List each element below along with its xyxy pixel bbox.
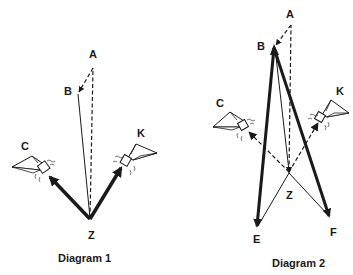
- vector-ab-dashed: [79, 68, 93, 92]
- vector-za-dashed: [90, 68, 93, 218]
- diagram-1: A B C K Z Diagram 1: [12, 48, 157, 264]
- label-z: Z: [286, 189, 293, 201]
- label-z: Z: [88, 229, 95, 241]
- label-a: A: [89, 48, 97, 60]
- caption-diagram-1: Diagram 1: [58, 252, 111, 264]
- hang-glider-icon: [12, 156, 55, 182]
- vector-zc-thick: [50, 177, 90, 219]
- label-b: B: [257, 40, 265, 52]
- diagram-2: A B C K Z E F Diagram 2: [213, 8, 349, 269]
- caption-diagram-2: Diagram 2: [272, 257, 325, 269]
- vector-zc-dashed: [249, 132, 289, 172]
- vector-zb: [78, 94, 90, 218]
- label-a: A: [286, 8, 294, 20]
- force-vector-diagrams: A B C K Z Diagram 1: [0, 0, 353, 275]
- arrowhead-b: [270, 44, 279, 55]
- vector-be-thick: [257, 48, 274, 226]
- label-b: B: [64, 85, 72, 97]
- label-k: K: [336, 85, 344, 97]
- label-c: C: [21, 140, 29, 152]
- vector-ab-dashed: [276, 25, 291, 45]
- label-f: F: [330, 226, 337, 238]
- vector-zb: [275, 48, 289, 171]
- hang-glider-icon: [213, 112, 255, 141]
- hang-glider-icon: [308, 100, 349, 130]
- vector-bf-thick: [274, 48, 329, 216]
- label-k: K: [137, 127, 145, 139]
- label-c: C: [216, 97, 224, 109]
- label-e: E: [253, 233, 260, 245]
- vector-zk-thick: [90, 168, 121, 219]
